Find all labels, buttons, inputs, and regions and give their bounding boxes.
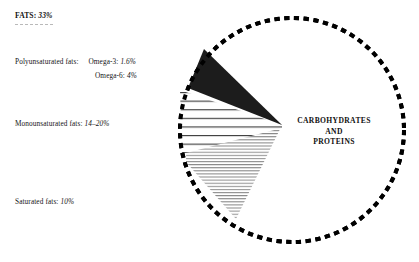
legend-sublabel-omega3: Omega-3: xyxy=(88,57,118,66)
nutrition-fats-diagram: FATS: 33% Polyunsaturated fats: Omega-3:… xyxy=(0,0,419,262)
legend-value-omega3: 1.6% xyxy=(120,57,136,66)
pie-center-label: CARBOHYDRATES AND PROTEINS xyxy=(282,116,386,148)
legend-value-saturated: 10% xyxy=(60,197,74,206)
legend-heading-label: FATS: xyxy=(15,11,36,20)
heading-divider xyxy=(15,24,53,25)
legend-item-polyunsaturated: Polyunsaturated fats: Omega-3: 1.6% xyxy=(15,57,136,66)
legend-heading-value: 33% xyxy=(38,11,52,20)
center-label-line-1: CARBOHYDRATES xyxy=(282,116,386,127)
center-label-line-2: AND xyxy=(282,127,386,138)
center-label-line-3: PROTEINS xyxy=(282,137,386,148)
legend-item-saturated: Saturated fats: 10% xyxy=(15,197,74,206)
legend-item-monounsaturated: Monounsaturated fats: 14–20% xyxy=(15,119,109,128)
legend-value-monounsaturated: 14–20% xyxy=(85,119,110,128)
legend-item-omega6: Omega-6: 4% xyxy=(95,71,137,80)
legend-label-polyunsaturated: Polyunsaturated fats: xyxy=(15,57,79,66)
legend-sublabel-omega6: Omega-6: xyxy=(95,71,125,80)
legend-panel: FATS: 33% Polyunsaturated fats: Omega-3:… xyxy=(0,0,190,262)
legend-label-monounsaturated: Monounsaturated fats: xyxy=(15,119,83,128)
legend-value-omega6: 4% xyxy=(127,71,137,80)
pie-chart: CARBOHYDRATES AND PROTEINS xyxy=(178,6,414,256)
legend-heading: FATS: 33% xyxy=(15,11,53,20)
legend-label-saturated: Saturated fats: xyxy=(15,197,58,206)
